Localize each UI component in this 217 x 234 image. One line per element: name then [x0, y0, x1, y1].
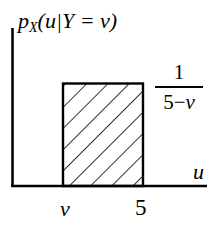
density-plot	[0, 0, 217, 234]
hatched-region	[62, 83, 143, 186]
tick-label-v: v	[60, 198, 70, 220]
fraction-denominator: 5−v	[155, 92, 203, 113]
fraction-bar	[155, 86, 203, 88]
fraction-numerator: 1	[155, 62, 203, 86]
x-axis-label: u	[193, 161, 204, 183]
tick-label-5: 5	[135, 196, 147, 219]
density-title: pX(u|Y = v)	[18, 10, 117, 35]
height-fraction-label: 1 5−v	[155, 62, 203, 113]
